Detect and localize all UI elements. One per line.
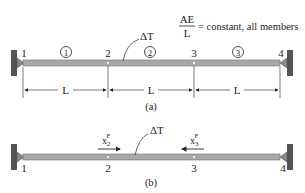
delta-t-leader bbox=[135, 134, 148, 155]
node-label-3: 3 bbox=[191, 47, 197, 59]
force-x3-label: x3F bbox=[190, 132, 199, 148]
node-3-dot bbox=[193, 156, 195, 158]
node-label-2: 2 bbox=[105, 162, 111, 174]
span-label-3: L bbox=[234, 84, 241, 96]
caption-b: (b) bbox=[145, 177, 158, 189]
right-pin-icon bbox=[280, 152, 287, 162]
delta-t-label-a: ΔT bbox=[140, 30, 154, 42]
delta-t-leader bbox=[123, 39, 139, 61]
legend-text: = constant, all members bbox=[198, 21, 298, 32]
span-label-2: L bbox=[148, 84, 155, 96]
node-label-3: 3 bbox=[191, 162, 197, 174]
right-pin-icon bbox=[280, 58, 287, 68]
node-2-dot bbox=[107, 156, 109, 158]
figure-b: 1 2 3 4 x2F x3F ΔT (b) bbox=[11, 124, 293, 189]
member-label-3: 3 bbox=[236, 48, 241, 58]
node-3-dot bbox=[193, 62, 195, 64]
node-label-2: 2 bbox=[105, 47, 111, 59]
figure-a: 1 2 3 4 1 2 3 ΔT L L L (a) bbox=[11, 30, 293, 113]
node-label-1: 1 bbox=[21, 162, 27, 174]
node-2-dot bbox=[107, 62, 109, 64]
force-x2-label: x2F bbox=[102, 132, 111, 148]
truss-bar-diagram: AE L = constant, all members 1 2 3 4 1 2… bbox=[0, 0, 305, 193]
caption-a: (a) bbox=[145, 101, 157, 113]
member-label-2: 2 bbox=[148, 48, 153, 58]
left-wall-support bbox=[11, 50, 17, 76]
bar-member bbox=[23, 154, 280, 160]
legend-fraction-numerator: AE bbox=[180, 13, 195, 25]
delta-t-label-b: ΔT bbox=[150, 124, 164, 136]
right-wall-support bbox=[287, 144, 293, 170]
left-wall-support bbox=[11, 144, 17, 170]
span-label-1: L bbox=[62, 84, 69, 96]
node-label-1: 1 bbox=[21, 47, 27, 59]
node-label-4: 4 bbox=[280, 162, 286, 174]
right-wall-support bbox=[287, 50, 293, 76]
member-label-1: 1 bbox=[64, 48, 69, 58]
node-label-4: 4 bbox=[278, 47, 284, 59]
legend-fraction-denominator: L bbox=[184, 27, 191, 39]
legend: AE L = constant, all members bbox=[179, 13, 298, 39]
bar-member bbox=[23, 60, 280, 66]
